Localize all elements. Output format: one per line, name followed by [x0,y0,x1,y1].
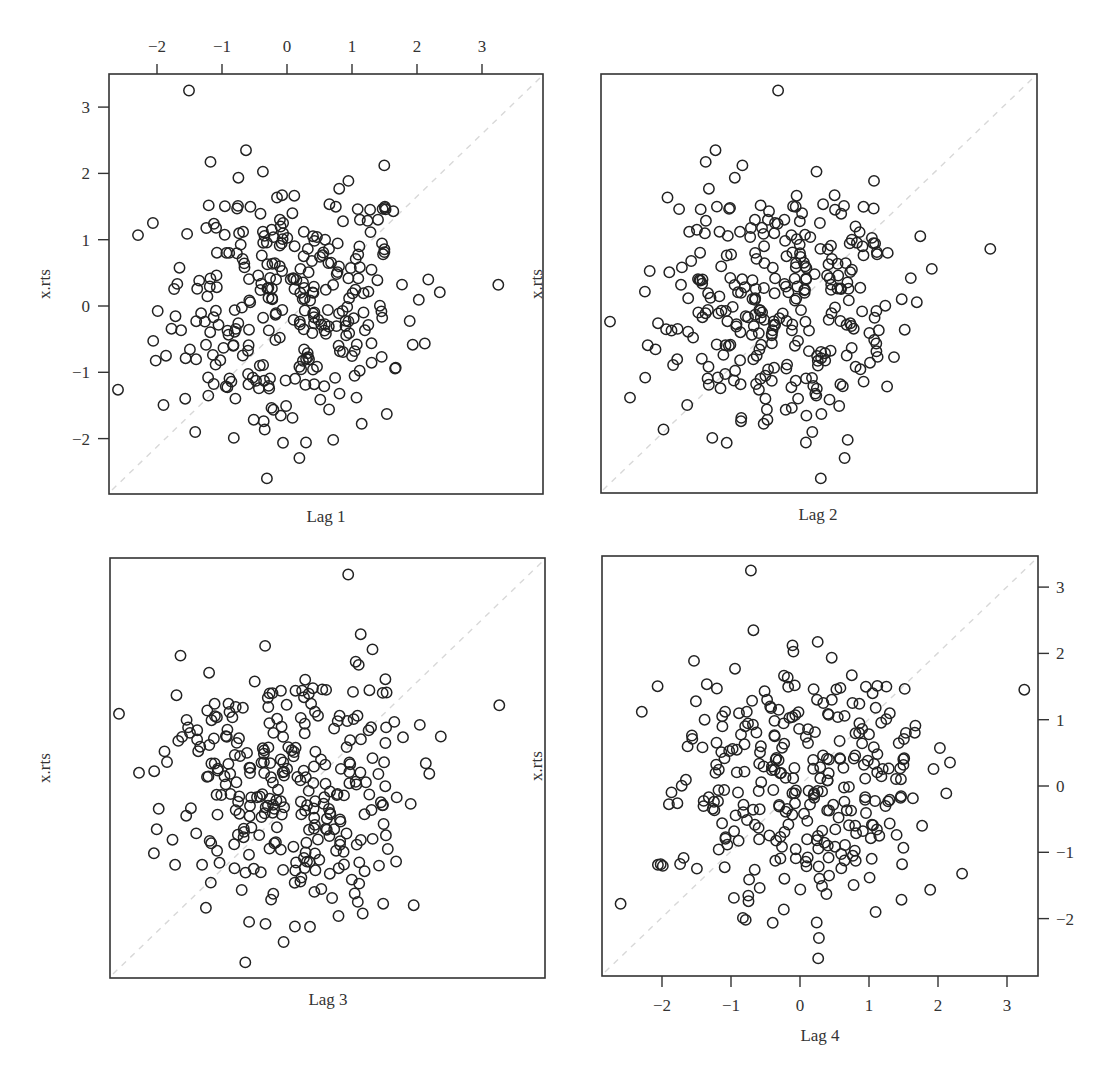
data-point [308,778,318,788]
data-point [735,355,745,365]
data-point [309,887,319,897]
data-point [834,736,844,746]
data-point [804,325,814,335]
data-point [720,862,730,872]
data-point [747,696,757,706]
data-point [356,629,366,639]
data-point [896,895,906,905]
data-point [320,779,330,789]
data-point [795,884,805,894]
data-point [278,732,288,742]
data-point [423,274,433,284]
data-point [662,192,672,202]
data-point [867,688,877,698]
data-point [696,204,706,214]
data-point [906,273,916,283]
data-point [223,759,233,769]
data-point [202,291,212,301]
data-point [159,746,169,756]
tick-label: 0 [283,37,292,56]
data-point [777,842,787,852]
data-point [730,173,740,183]
data-point [830,842,840,852]
data-point [196,308,206,318]
data-point [294,453,304,463]
data-point [244,325,254,335]
ylabel-lag3: x.rts [35,753,54,783]
ylabel-lag1: x.rts [35,269,54,299]
data-point [324,404,334,414]
data-point [244,811,254,821]
data-point [244,850,254,860]
data-point [408,340,418,350]
data-point [848,880,858,890]
data-point [406,799,416,809]
data-point [769,288,779,298]
data-point [686,256,696,266]
data-point [748,625,758,635]
data-point [823,852,833,862]
data-point [353,204,363,214]
data-point [704,184,714,194]
data-point [378,899,388,909]
tick-label: −1 [722,996,740,1015]
data-point [281,401,291,411]
data-point [245,202,255,212]
data-point [186,803,196,813]
data-point [405,316,415,326]
data-point [827,653,837,663]
data-point [289,191,299,201]
data-point [359,866,369,876]
data-point [640,372,650,382]
data-point [858,826,868,836]
data-point [358,908,368,918]
data-point [722,438,732,448]
data-point [812,917,822,927]
data-point [672,324,682,334]
tick-label: 0 [796,996,805,1015]
data-point [304,786,314,796]
data-point [334,308,344,318]
data-point [379,757,389,767]
data-point [754,328,764,338]
data-point [222,724,232,734]
data-point [334,388,344,398]
data-point [874,325,884,335]
data-point [710,145,720,155]
data-point [821,889,831,899]
data-point [830,824,840,834]
tick-label: 1 [1056,711,1065,730]
data-point [701,216,711,226]
data-point [917,821,927,831]
data-point [212,846,222,856]
data-point [716,747,726,757]
data-point [699,715,709,725]
data-point [675,859,685,869]
data-point [847,670,857,680]
data-point [754,834,764,844]
data-point [209,379,219,389]
data-point [113,385,123,395]
data-point [814,861,824,871]
data-point [391,856,401,866]
data-point [733,787,743,797]
data-point [985,244,995,254]
data-point [844,295,854,305]
data-point [789,763,799,773]
data-point [883,248,893,258]
data-point [692,863,702,873]
data-point [174,263,184,273]
data-point [203,390,213,400]
panel-lag4: −2−10123 −2−10123 Lag 4 x.rts [527,556,1074,1045]
data-point [299,227,309,237]
data-point [858,202,868,212]
tick-label: −2 [653,996,671,1015]
data-point [801,437,811,447]
data-point [398,732,408,742]
data-point [730,366,740,376]
data-point [373,769,383,779]
data-point [824,394,834,404]
data-point [494,700,504,710]
data-point [712,683,722,693]
reference-line [113,562,542,974]
